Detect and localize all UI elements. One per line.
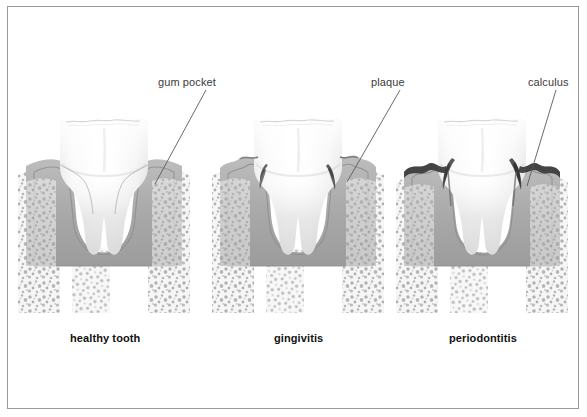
panel-healthy-tooth (18, 118, 190, 313)
callout-label-calculus: calculus (528, 76, 569, 88)
dental-disease-diagram: gum pocket plaque calculus healthy tooth… (0, 0, 587, 417)
callout-label-plaque: plaque (371, 76, 405, 88)
callout-label-gum-pocket: gum pocket (158, 76, 216, 88)
panel-caption-healthy-tooth: healthy tooth (70, 332, 140, 344)
panel-caption-gingivitis: gingivitis (274, 332, 323, 344)
panel-caption-periodontitis: periodontitis (449, 332, 517, 344)
tooth-illustrations (0, 0, 587, 417)
panel-gingivitis (212, 118, 384, 313)
panel-periodontitis (396, 118, 568, 313)
